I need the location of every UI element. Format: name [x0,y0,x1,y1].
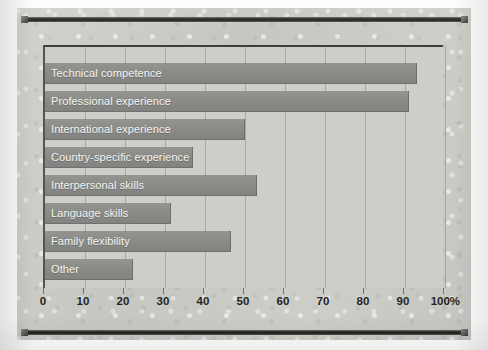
decorative-rule-bottom [23,330,466,335]
rule-cap-left-icon [21,16,28,23]
axis-tick [163,288,164,294]
axis-tick [443,288,444,294]
bar-row[interactable]: Family flexibility [45,231,445,252]
axis-tick-label: 60 [277,295,290,307]
axis-tick [403,288,404,294]
bar-chart: Technical competenceProfessional experie… [43,45,443,288]
bar-row[interactable]: Country-specific experience [45,147,445,168]
axis-tick-label: 20 [117,295,130,307]
bar-category-label: International experience [51,119,171,140]
axis-tick [323,288,324,294]
axis-tick [83,288,84,294]
axis-tick [123,288,124,294]
page-margin-left [0,0,17,350]
axis-tick [243,288,244,294]
axis-tick-label: 40 [197,295,210,307]
bar-category-label: Language skills [51,203,128,224]
bar-row[interactable]: Other [45,259,445,280]
plot-area: Technical competenceProfessional experie… [43,45,443,288]
axis-tick-label: 70 [317,295,330,307]
bar-category-label: Professional experience [51,91,171,112]
bar-category-label: Family flexibility [51,231,130,252]
axis-tick-label: 80 [357,295,370,307]
axis-tick-label: 30 [157,295,170,307]
bar-row[interactable]: Professional experience [45,91,445,112]
bar-category-label: Technical competence [51,63,162,84]
rule-cap-right-icon [461,16,468,23]
axis-tick-label: 10 [77,295,90,307]
scanned-page: Technical competenceProfessional experie… [0,0,488,350]
axis-tick [363,288,364,294]
bar-category-label: Interpersonal skills [51,175,144,196]
rule-cap-right-icon [461,329,468,336]
page-margin-right [471,0,488,350]
x-axis: 0102030405060708090100% [43,288,443,314]
rule-cap-left-icon [21,329,28,336]
page-margin-top [0,0,488,8]
bar-row[interactable]: Interpersonal skills [45,175,445,196]
bar-row[interactable]: Language skills [45,203,445,224]
bar-category-label: Other [51,259,79,280]
decorative-rule-top [23,17,466,22]
bar-row[interactable]: Technical competence [45,63,445,84]
page-margin-bottom [0,340,488,350]
axis-tick-label: 90 [397,295,410,307]
axis-tick-label: 100% [431,295,460,307]
bar-category-label: Country-specific experience [51,147,189,168]
axis-tick [43,288,44,294]
axis-tick [283,288,284,294]
gridline [445,47,446,288]
axis-tick-label: 50 [237,295,250,307]
axis-tick-label: 0 [40,295,46,307]
bar-row[interactable]: International experience [45,119,445,140]
axis-tick [203,288,204,294]
